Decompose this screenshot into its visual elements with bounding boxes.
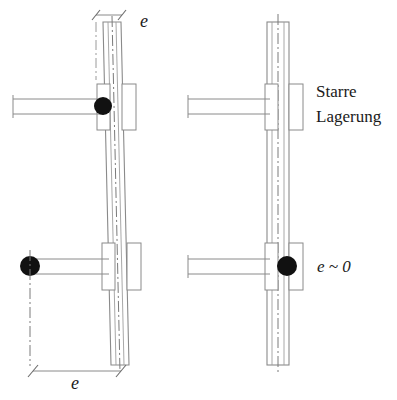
left-upper-bearing-point-marker <box>94 97 112 115</box>
left-lower-bearing-block-inner <box>102 243 115 290</box>
right-upper-bearing-block-outer <box>289 84 303 130</box>
rigid-bearing-label-line2: Lagerung <box>316 107 382 126</box>
left-upper-bearing-block-outer <box>122 84 136 130</box>
top-dimension-label: e <box>140 11 148 31</box>
diagram-background <box>0 0 397 400</box>
right-column <box>267 14 289 372</box>
left-lower-bearing-block-outer <box>127 243 141 290</box>
bottom-dimension-label: e <box>71 373 79 393</box>
eccentricity-zero-label: e ~ 0 <box>317 257 351 276</box>
engineering-diagram: e e Starre Lagerung e ~ 0 <box>0 0 397 400</box>
right-lower-bearing-point-marker <box>277 256 297 276</box>
diagram-canvas: e e Starre Lagerung e ~ 0 <box>0 0 397 400</box>
right-upper-bearing-block-inner <box>265 84 278 130</box>
rigid-bearing-label-line1: Starre <box>316 82 357 101</box>
right-lower-bearing-block-inner <box>265 243 278 290</box>
